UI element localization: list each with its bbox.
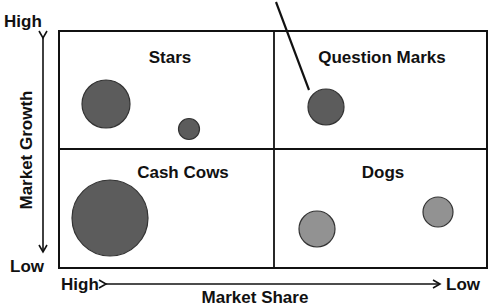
- cash-cows-bubble: [72, 180, 148, 256]
- quadrant-label-cash-cows: Cash Cows: [137, 163, 229, 182]
- quadrant-label-stars: Stars: [149, 48, 192, 67]
- y-axis-title: Market Growth: [17, 90, 36, 209]
- question-marks-bubble: [308, 89, 344, 125]
- stars-bubble-small: [179, 119, 200, 140]
- x-axis-title: Market Share: [202, 288, 309, 307]
- y-axis-low-label: Low: [10, 257, 45, 276]
- dogs-bubble-left: [299, 211, 335, 247]
- dogs-bubble-right: [423, 197, 453, 227]
- bcg-matrix-diagram: Stars Question Marks Cash Cows Dogs High…: [0, 0, 491, 307]
- quadrant-label-dogs: Dogs: [362, 163, 405, 182]
- x-axis-high-label: High: [61, 275, 99, 294]
- x-axis-low-label: Low: [446, 275, 481, 294]
- y-axis-high-label: High: [4, 12, 42, 31]
- quadrant-label-question-marks: Question Marks: [318, 48, 446, 67]
- stars-bubble-large: [82, 80, 130, 128]
